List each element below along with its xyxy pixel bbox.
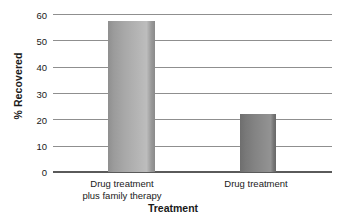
y-tick-label: 10 — [36, 141, 47, 152]
category-label-0-line-0: Drug treatment — [52, 178, 192, 190]
y-tick-label: 50 — [36, 35, 47, 46]
y-tick-label: 60 — [36, 9, 47, 20]
category-label-0-line-1: plus family therapy — [52, 190, 192, 202]
gridline: 40 — [53, 67, 332, 68]
gridline: 50 — [53, 40, 332, 41]
bar-0 — [108, 21, 155, 172]
bar-chart: % Recovered 0102030405060 Drug treatment… — [0, 0, 346, 221]
y-tick-label: 40 — [36, 62, 47, 73]
bar-1 — [240, 114, 276, 172]
y-axis-title: % Recovered — [8, 0, 28, 172]
gridline: 30 — [53, 93, 332, 94]
category-label-1-line-0: Drug treatment — [186, 178, 326, 190]
y-tick-label: 30 — [36, 88, 47, 99]
category-label-1: Drug treatment — [186, 178, 326, 190]
y-tick-label: 20 — [36, 114, 47, 125]
plot-area: 0102030405060 — [53, 14, 332, 172]
y-tick-label: 0 — [42, 167, 47, 178]
x-axis-title: Treatment — [0, 202, 346, 214]
gridline: 20 — [53, 119, 332, 120]
gridline: 60 — [53, 14, 332, 15]
x-axis-line: 0 — [53, 171, 332, 173]
y-axis-title-text: % Recovered — [12, 52, 24, 119]
gridline: 10 — [53, 146, 332, 147]
category-label-0: Drug treatment plus family therapy — [52, 178, 192, 201]
